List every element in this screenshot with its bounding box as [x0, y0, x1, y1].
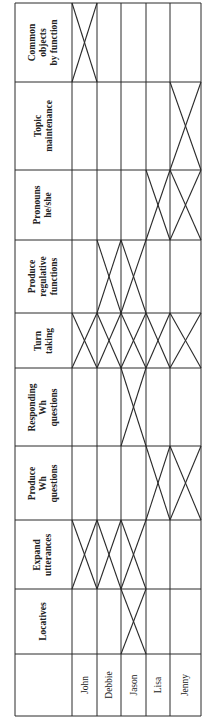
cross-mark-icon — [72, 520, 97, 589]
student-name-cell: John — [72, 654, 97, 716]
student-name-cell: Lisa — [146, 654, 170, 716]
cross-mark-icon — [72, 313, 97, 368]
skill-header: Produce Wh questions — [15, 446, 72, 520]
skill-header: Expand utterances — [15, 520, 72, 589]
student-name: Jenny — [180, 674, 190, 696]
skill-label: Topic maintenance — [33, 100, 55, 152]
student-name-cell: Jason — [121, 654, 146, 716]
student-name: Debbie — [104, 671, 114, 698]
cross-mark-icon — [121, 520, 146, 589]
cross-mark-icon — [121, 240, 146, 313]
cross-mark-icon — [97, 313, 121, 368]
cross-mark-icon — [170, 82, 201, 170]
student-name: Lisa — [153, 677, 163, 693]
skill-header: Locatives — [15, 589, 72, 654]
cross-mark-icon — [146, 170, 170, 240]
cross-mark-icon — [146, 313, 170, 368]
student-name: John — [79, 676, 89, 694]
cross-mark-icon — [72, 3, 97, 82]
cross-mark-icon — [121, 313, 146, 368]
skill-header: Turn taking — [15, 313, 72, 368]
skill-header: Pronouns he/she — [15, 170, 72, 240]
skill-label: Pronouns he/she — [33, 186, 55, 225]
skills-checklist-table: LocativesExpand utterancesProduce Wh que… — [0, 0, 211, 726]
cross-mark-icon — [121, 589, 146, 654]
cross-mark-icon — [170, 170, 201, 240]
skill-header: Produce regulative functions — [15, 240, 72, 313]
cross-mark-icon — [170, 446, 201, 520]
student-name-cell: Debbie — [97, 654, 121, 716]
cross-mark-icon — [146, 446, 170, 520]
skill-label: Locatives — [38, 602, 49, 641]
student-name: Jason — [129, 674, 139, 695]
skill-header: Topic maintenance — [15, 82, 72, 170]
skill-label: Responding Wh questions — [27, 383, 60, 431]
skill-label: Common objects by function — [27, 19, 60, 65]
skill-label: Produce Wh questions — [27, 464, 60, 502]
skill-label: Produce regulative functions — [27, 256, 60, 296]
cross-mark-icon — [97, 240, 121, 313]
cross-mark-icon — [97, 520, 121, 589]
skill-label: Turn taking — [33, 328, 55, 354]
cross-mark-icon — [170, 313, 201, 368]
student-name-cell: Jenny — [170, 654, 201, 716]
cross-mark-icon — [121, 368, 146, 446]
skill-header: Common objects by function — [15, 3, 72, 82]
skill-label: Expand utterances — [33, 533, 55, 575]
skill-header: Responding Wh questions — [15, 368, 72, 446]
